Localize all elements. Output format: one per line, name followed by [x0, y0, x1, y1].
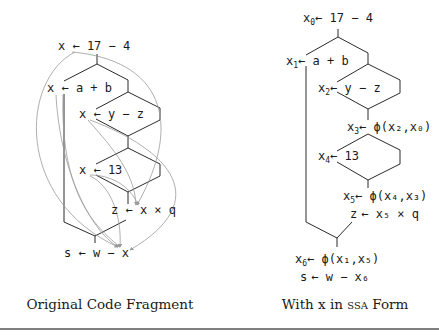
- stmt-x-17-minus-4: x ← 17 − 4: [58, 39, 130, 53]
- ssa-stmt-x4: x4← 13: [318, 149, 359, 165]
- ssa-stmt-x3-phi: x3← ϕ(x₂,x₀): [347, 120, 431, 136]
- ssa-stmt-x2: x2← y − z: [318, 81, 381, 97]
- left-caption: Original Code Fragment: [27, 296, 195, 312]
- stmt-s-w-minus-x: s ← w − x: [64, 246, 129, 260]
- stmt-x-a-plus-b: x ← a + b: [47, 81, 112, 95]
- ssa-stmt-x6-phi: x6← ϕ(x₁,x₅): [295, 252, 379, 268]
- def-use-arc: [90, 120, 176, 250]
- left-statements: x ← 17 − 4 x ← a + b x ← y − z x ← 13 z …: [47, 39, 176, 260]
- cfg-edge: [95, 220, 126, 243]
- ssa-stmt-z: z← x₅ × q: [350, 207, 419, 221]
- stmt-x-y-minus-z: x ← y − z: [79, 107, 144, 121]
- right-statements: x0← 17 − 4 x1← a + b x2← y − z x3← ϕ(x₂,…: [286, 11, 431, 284]
- ssa-stmt-s: s← w − x₆: [300, 270, 369, 284]
- ssa-stmt-x1: x1← a + b: [286, 54, 349, 70]
- stmt-z-x-times-q: z ← x × q: [111, 203, 176, 217]
- ssa-stmt-x5-phi: x5← ϕ(x₄,x₃): [343, 189, 427, 205]
- stmt-x-13: x ← 13: [79, 163, 122, 177]
- cfg-edge: [64, 54, 97, 81]
- right-caption: With x in SSA Form: [282, 296, 409, 312]
- cfg-edge: [306, 29, 338, 55]
- def-use-arc: [90, 175, 138, 205]
- figure-canvas: x ← 17 − 4 x ← a + b x ← y − z x ← 13 z …: [0, 0, 439, 335]
- cfg-edge: [337, 222, 352, 238]
- ssa-stmt-x0: x0← 17 − 4: [303, 11, 373, 27]
- cfg-edge: [96, 148, 128, 164]
